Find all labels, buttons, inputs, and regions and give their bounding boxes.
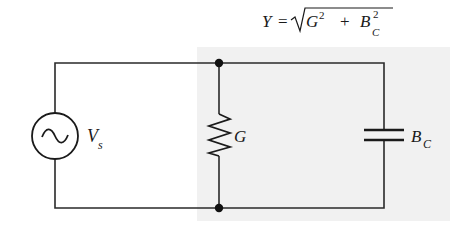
formula-term2-base: B	[360, 12, 371, 31]
formula-plus: +	[340, 12, 350, 31]
parallel-rc-circuit-diagram: Y = G 2 + B 2 C V s G B C	[0, 0, 468, 226]
bottom-junction-node	[215, 204, 223, 212]
resistor-label: G	[234, 127, 246, 146]
formula-term1-exp: 2	[319, 9, 325, 21]
formula-equals: =	[278, 12, 288, 31]
top-junction-node	[215, 59, 223, 67]
formula-term2-exp: 2	[373, 8, 379, 20]
capacitor-label-base: B	[411, 127, 422, 146]
formula-term2-sub: C	[372, 26, 380, 38]
ac-voltage-source: V s	[32, 113, 103, 159]
capacitor-label-sub: C	[423, 137, 432, 151]
formula-lhs: Y	[262, 12, 273, 31]
source-label-sub: s	[98, 138, 103, 152]
formula-term1-base: G	[306, 12, 318, 31]
admittance-formula: Y = G 2 + B 2 C	[262, 8, 393, 38]
